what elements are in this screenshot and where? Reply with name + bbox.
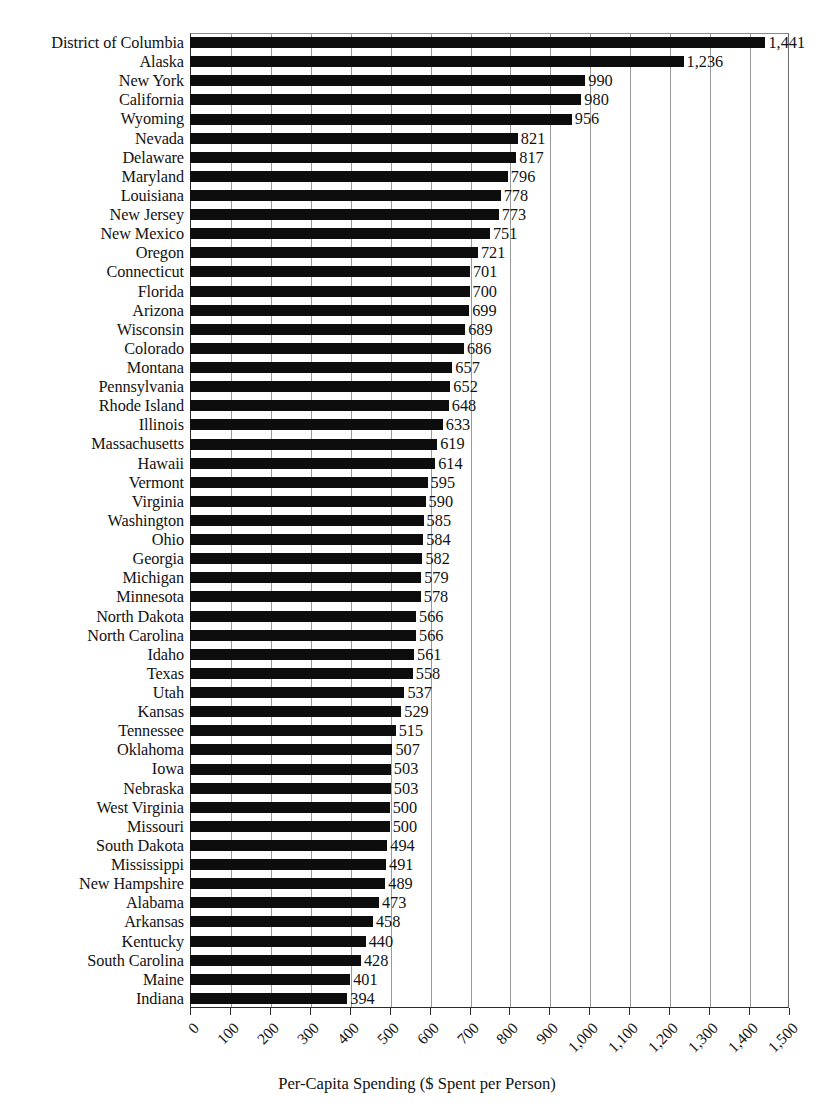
bar: [190, 974, 350, 985]
value-label: 773: [502, 205, 526, 224]
bar-row: Texas558: [0, 664, 834, 683]
bar: [190, 706, 401, 717]
category-label: Hawaii: [0, 454, 184, 473]
category-label: Virginia: [0, 492, 184, 511]
bar: [190, 611, 416, 622]
category-label: West Virginia: [0, 798, 184, 817]
bar: [190, 687, 404, 698]
category-label: Wyoming: [0, 109, 184, 128]
category-label: Rhode Island: [0, 396, 184, 415]
value-label: 507: [395, 740, 419, 759]
value-label: 473: [382, 893, 406, 912]
category-label: Texas: [0, 664, 184, 683]
category-label: New York: [0, 71, 184, 90]
bar-row: Rhode Island648: [0, 396, 834, 415]
x-axis-tick: [310, 1008, 311, 1015]
bar-row: Alabama473: [0, 893, 834, 912]
x-axis-tick: [589, 1008, 590, 1015]
category-label: Alaska: [0, 52, 184, 71]
bar: [190, 343, 464, 354]
bar: [190, 802, 390, 813]
value-label: 980: [584, 90, 608, 109]
bar-row: New Mexico751: [0, 224, 834, 243]
x-axis-tick: [789, 1008, 790, 1015]
bar-row: Virginia590: [0, 492, 834, 511]
value-label: 401: [353, 970, 377, 989]
category-label: Utah: [0, 683, 184, 702]
bar: [190, 725, 396, 736]
category-label: Florida: [0, 282, 184, 301]
value-label: 503: [394, 779, 418, 798]
bar-row: Georgia582: [0, 549, 834, 568]
value-label: 489: [388, 874, 412, 893]
value-label: 796: [511, 167, 535, 186]
bar: [190, 668, 413, 679]
bar: [190, 477, 428, 488]
bar: [190, 993, 347, 1004]
bar: [190, 916, 373, 927]
category-label: Maryland: [0, 167, 184, 186]
category-label: Alabama: [0, 893, 184, 912]
category-label: Georgia: [0, 549, 184, 568]
category-label: New Jersey: [0, 205, 184, 224]
category-label: Iowa: [0, 759, 184, 778]
bar-chart: District of Columbia1,441Alaska1,236New …: [0, 0, 834, 1113]
bar: [190, 133, 518, 144]
bar-row: Minnesota578: [0, 587, 834, 606]
bar-row: Iowa503: [0, 759, 834, 778]
bar: [190, 572, 421, 583]
value-label: 566: [419, 626, 443, 645]
bar: [190, 381, 450, 392]
bar-row: Nevada821: [0, 129, 834, 148]
category-label: Oklahoma: [0, 740, 184, 759]
bar-row: Vermont595: [0, 473, 834, 492]
value-label: 428: [364, 951, 388, 970]
value-label: 561: [417, 645, 441, 664]
value-label: 700: [473, 282, 497, 301]
value-label: 537: [407, 683, 431, 702]
bar-row: Maryland796: [0, 167, 834, 186]
bar-row: California980: [0, 90, 834, 109]
value-label: 614: [438, 454, 462, 473]
bar: [190, 171, 508, 182]
value-label: 494: [390, 836, 414, 855]
x-axis-tick: [430, 1008, 431, 1015]
category-label: Louisiana: [0, 186, 184, 205]
bar: [190, 496, 426, 507]
bar-row: District of Columbia1,441: [0, 33, 834, 52]
bar-row: Wisconsin689: [0, 320, 834, 339]
category-label: Colorado: [0, 339, 184, 358]
x-axis-tick: [190, 1008, 191, 1015]
bar-row: Wyoming956: [0, 109, 834, 128]
x-axis-tick: [749, 1008, 750, 1015]
category-label: Mississippi: [0, 855, 184, 874]
value-label: 648: [452, 396, 476, 415]
bar-row: Connecticut701: [0, 262, 834, 281]
bar: [190, 305, 469, 316]
bar: [190, 744, 392, 755]
bar-row: Pennsylvania652: [0, 377, 834, 396]
category-label: Michigan: [0, 568, 184, 587]
value-label: 440: [369, 932, 393, 951]
value-label: 657: [455, 358, 479, 377]
value-label: 595: [431, 473, 455, 492]
value-label: 582: [425, 549, 449, 568]
bar: [190, 878, 385, 889]
category-label: Nevada: [0, 129, 184, 148]
value-label: 821: [521, 129, 545, 148]
bar: [190, 75, 585, 86]
bar-row: Missouri500: [0, 817, 834, 836]
value-label: 491: [389, 855, 413, 874]
bar: [190, 630, 416, 641]
bar: [190, 859, 386, 870]
bar-row: New York990: [0, 71, 834, 90]
bar: [190, 228, 490, 239]
bar: [190, 439, 437, 450]
bar: [190, 553, 422, 564]
bar-row: Alaska1,236: [0, 52, 834, 71]
value-label: 579: [424, 568, 448, 587]
category-label: Connecticut: [0, 262, 184, 281]
category-label: District of Columbia: [0, 33, 184, 52]
value-label: 817: [519, 148, 543, 167]
bar-row: Massachusetts619: [0, 434, 834, 453]
